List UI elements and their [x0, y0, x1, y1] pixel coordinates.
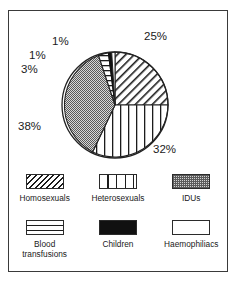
pct-label-heterosexuals: 32% — [153, 143, 176, 155]
legend-swatch-homosexuals-icon — [26, 174, 64, 189]
legend-label-children: Children — [102, 239, 133, 249]
pct-label-idus: 38% — [18, 120, 41, 132]
legend-item-children[interactable]: Children — [81, 220, 154, 266]
legend-label-heterosexuals: Heterosexuals — [91, 193, 144, 203]
legend-swatch-haemophiliacs-icon — [172, 220, 210, 235]
legend-row-bottom: Blood transfusions Children Haemophiliac… — [8, 220, 228, 266]
legend-label-idus: IDUs — [182, 193, 200, 203]
pie-svg — [8, 10, 228, 170]
pct-label-homosexuals: 25% — [144, 30, 167, 42]
legend-swatch-blood-transfusions-icon — [26, 220, 64, 235]
legend-row-top: Homosexuals Heterosexuals IDUs — [8, 174, 228, 220]
legend-item-homosexuals[interactable]: Homosexuals — [8, 174, 81, 220]
chart-legend: Homosexuals Heterosexuals IDUs Blood tra… — [8, 172, 228, 272]
legend-label-haemophiliacs: Haemophiliacs — [164, 239, 218, 249]
pie-slice-homosexuals[interactable] — [115, 52, 168, 105]
pct-label-blood-transfusions: 3% — [21, 63, 38, 75]
legend-swatch-heterosexuals-icon — [99, 174, 137, 189]
legend-label-homosexuals: Homosexuals — [20, 193, 70, 203]
pct-label-children: 1% — [29, 49, 46, 61]
legend-item-haemophiliacs[interactable]: Haemophiliacs — [155, 220, 228, 266]
legend-item-heterosexuals[interactable]: Heterosexuals — [81, 174, 154, 220]
pie-chart-figure: 25% 32% 38% 3% 1% 1% Homosexuals Heteros… — [0, 0, 239, 286]
pct-label-haemophiliacs: 1% — [52, 35, 69, 47]
pie-plot-area: 25% 32% 38% 3% 1% 1% — [8, 10, 228, 170]
legend-swatch-idus-icon — [172, 174, 210, 189]
legend-label-blood-transfusions: Blood transfusions — [22, 239, 67, 259]
legend-item-idus[interactable]: IDUs — [155, 174, 228, 220]
legend-item-blood-transfusions[interactable]: Blood transfusions — [8, 220, 81, 266]
legend-swatch-children-icon — [99, 220, 137, 235]
